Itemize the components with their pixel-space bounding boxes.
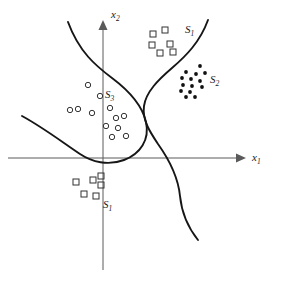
markers-s3 — [67, 82, 128, 139]
marker-dot — [184, 70, 188, 74]
marker-circle — [121, 113, 126, 118]
marker-dot — [184, 95, 188, 99]
boundary-curve-blob — [22, 22, 147, 163]
axes-group — [8, 20, 246, 270]
marker-square — [170, 49, 176, 55]
marker-dot — [181, 83, 185, 87]
marker-dot — [198, 64, 202, 68]
marker-dot — [188, 90, 192, 94]
plot-canvas — [0, 0, 282, 287]
decision-boundaries-group — [22, 20, 208, 240]
marker-circle — [85, 82, 90, 87]
markers-s1-lower — [73, 173, 104, 199]
region-label-s3: S3 — [105, 89, 114, 103]
marker-square — [167, 41, 173, 47]
marker-circle — [123, 133, 128, 138]
x-axis-label: x1 — [252, 152, 261, 166]
marker-dot — [194, 72, 198, 76]
marker-dot — [190, 84, 194, 88]
markers-s2 — [179, 64, 207, 99]
marker-dot — [189, 77, 193, 81]
marker-dot — [180, 76, 184, 80]
marker-circle — [89, 110, 94, 115]
marker-circle — [107, 105, 112, 110]
marker-dot — [198, 79, 202, 83]
region-label-s2: S2 — [210, 74, 219, 88]
marker-circle — [103, 123, 108, 128]
region-label-s1-upper: S1 — [185, 24, 194, 38]
marker-square — [73, 179, 79, 185]
marker-square — [81, 191, 87, 197]
markers-s1-upper — [149, 27, 176, 56]
y-axis-label: x2 — [111, 9, 120, 23]
y-axis-arrowhead — [99, 20, 108, 30]
marker-square — [162, 27, 168, 33]
marker-circle — [75, 106, 80, 111]
marker-circle — [109, 134, 114, 139]
marker-square — [90, 177, 96, 183]
marker-square — [157, 50, 163, 56]
region-label-s1-lower: S1 — [103, 199, 112, 213]
pattern-classification-figure: x2 x1 S1 S2 S3 S1 — [0, 0, 282, 287]
marker-dot — [193, 95, 197, 99]
marker-circle — [113, 115, 118, 120]
marker-circle — [67, 107, 72, 112]
marker-dot — [203, 71, 207, 75]
x-axis-arrowhead — [236, 154, 246, 163]
marker-square — [93, 193, 99, 199]
marker-square — [150, 31, 156, 37]
marker-dot — [179, 89, 183, 93]
marker-dot — [200, 85, 204, 89]
marker-square — [149, 42, 155, 48]
marker-circle — [97, 93, 102, 98]
marker-circle — [115, 125, 120, 130]
